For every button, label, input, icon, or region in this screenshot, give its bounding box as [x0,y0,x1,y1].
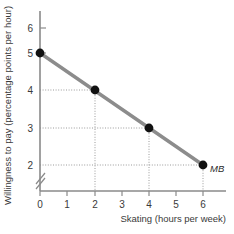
x-tick-label-4: 4 [146,199,152,210]
chart-canvas: 6 5 4 3 2 0 1 2 3 4 5 6 Skating (hours p… [0,0,234,234]
y-tick-label-3: 3 [27,123,33,134]
data-point-6-2 [199,161,208,170]
x-tick-label-3: 3 [119,199,125,210]
data-point-0-5 [36,49,45,58]
x-tick-label-1: 1 [64,199,70,210]
x-tick-label-2: 2 [92,199,98,210]
y-tick-label-5: 5 [27,48,33,59]
chart-background [0,0,234,234]
mb-curve-label: MB [210,163,225,174]
x-tick-label-6: 6 [200,199,206,210]
y-tick-label-6: 6 [27,23,33,34]
data-point-2-4 [91,86,100,95]
x-tick-label-5: 5 [173,199,179,210]
marginal-benefit-chart: 6 5 4 3 2 0 1 2 3 4 5 6 Skating (hours p… [0,0,234,234]
y-axis-title: Willingness to pay (percentage points pe… [2,6,13,205]
x-axis-title: Skating (hours per week) [120,213,226,224]
y-tick-label-2: 2 [27,160,33,171]
y-tick-label-4: 4 [27,85,33,96]
x-tick-label-0: 0 [37,199,43,210]
data-point-4-3 [145,124,154,133]
